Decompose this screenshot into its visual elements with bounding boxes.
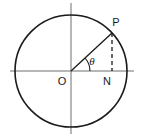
geometry-diagram: P O N θ (0, 0, 144, 138)
label-foot-n: N (103, 75, 111, 87)
label-origin-o: O (58, 75, 67, 87)
unit-circle-figure: P O N θ (0, 0, 144, 138)
label-point-p: P (112, 16, 119, 28)
label-angle-theta: θ (89, 55, 95, 67)
